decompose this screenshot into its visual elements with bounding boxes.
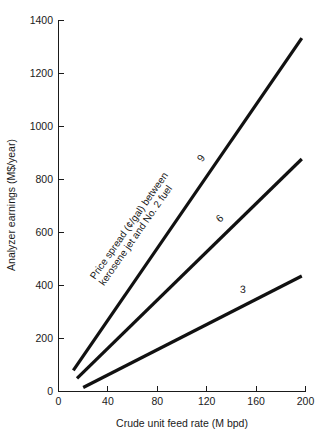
y-tick-label-400: 400: [35, 279, 53, 291]
x-tick-label-0: 0: [56, 395, 62, 407]
y-tick-label-800: 800: [35, 173, 53, 185]
line-chart-canvas: 0 200 400 600 800 1000 1200 1400 0 40 80…: [0, 0, 330, 434]
series-group: [73, 38, 301, 387]
y-axis-ticks: [59, 21, 65, 392]
series-label-9: 9: [194, 152, 207, 164]
series-labels-group: 9 6 3: [194, 152, 246, 295]
y-axis-title: Analyzer earnings (M$/year): [5, 139, 17, 271]
x-tick-label-160: 160: [247, 395, 265, 407]
y-tick-label-1400: 1400: [30, 14, 54, 26]
x-axis-tick-labels: 0 40 80 120 160 200: [56, 395, 315, 407]
x-tick-label-200: 200: [297, 395, 315, 407]
chart-figure: 0 200 400 600 800 1000 1200 1400 0 40 80…: [0, 0, 330, 434]
y-axis-tick-labels: 0 200 400 600 800 1000 1200 1400: [30, 14, 54, 397]
series-line-9: [73, 38, 301, 370]
x-axis-title: Crude unit feed rate (M bpd): [116, 417, 248, 429]
price-spread-annotation: Price spread (¢/gal) between kerosene je…: [88, 170, 179, 287]
x-tick-label-120: 120: [198, 395, 216, 407]
x-tick-label-40: 40: [102, 395, 114, 407]
y-tick-label-0: 0: [47, 385, 53, 397]
y-tick-label-200: 200: [35, 332, 53, 344]
y-tick-label-600: 600: [35, 226, 53, 238]
x-tick-label-80: 80: [151, 395, 163, 407]
price-spread-annotation-line2: kerosene jet and No. 2 fuel: [97, 183, 175, 287]
series-label-3: 3: [240, 283, 246, 295]
x-axis-ticks: [59, 386, 306, 392]
series-line-3: [83, 276, 302, 388]
price-spread-annotation-line1: Price spread (¢/gal) between: [88, 170, 170, 281]
y-tick-label-1200: 1200: [30, 67, 54, 79]
series-label-6: 6: [213, 212, 226, 225]
y-tick-label-1000: 1000: [30, 120, 54, 132]
